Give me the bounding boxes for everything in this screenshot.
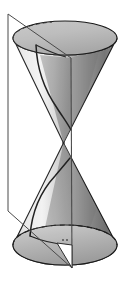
- cutting-plane: [8, 14, 72, 268]
- upper-inner-shadow: [71, 48, 100, 132]
- apex-point: [62, 142, 64, 144]
- double-cone-diagram: [0, 0, 127, 284]
- conic-section-figure: A shaded double cone (two nappes meeting…: [0, 0, 127, 284]
